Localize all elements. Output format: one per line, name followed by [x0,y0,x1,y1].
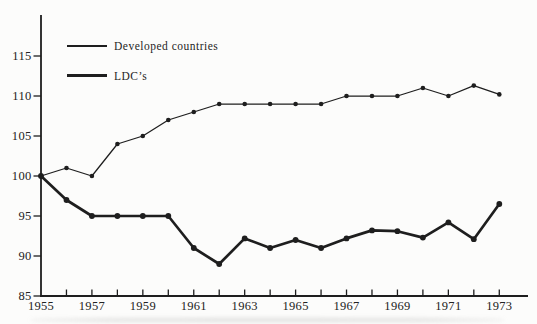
legend-thick-line-swatch [67,74,107,78]
y-tick-label: 115 [12,49,31,63]
data-point-ldc [89,213,95,219]
data-point-developed [446,94,451,99]
series-line-developed [41,86,499,176]
x-tick-label: 1967 [333,299,359,313]
data-point-ldc [38,173,44,179]
data-point-ldc [165,213,171,219]
data-point-developed [421,86,426,91]
data-point-developed [497,92,502,97]
data-point-ldc [216,261,222,267]
data-point-developed [395,94,400,99]
data-point-ldc [140,213,146,219]
legend-thin-line-swatch [67,45,107,47]
data-point-developed [90,174,95,179]
data-point-ldc [471,236,477,242]
data-point-developed [319,102,324,107]
x-tick-label: 1971 [435,299,461,313]
data-point-developed [166,118,171,123]
data-point-ldc [369,228,375,234]
data-point-ldc [267,245,273,251]
data-point-ldc [191,245,197,251]
x-tick-label: 1955 [28,299,54,313]
y-tick-label: 110 [12,89,31,103]
x-tick-label: 1961 [181,299,207,313]
data-point-ldc [344,236,350,242]
y-tick-label: 95 [18,209,31,223]
data-point-developed [370,94,375,99]
data-point-developed [64,166,69,171]
legend-item-developed: Developed countries [67,38,218,54]
y-tick-label: 90 [18,249,31,263]
data-point-developed [472,83,477,88]
data-point-developed [141,134,146,139]
data-point-developed [115,142,120,147]
scan-artifact [30,318,505,322]
x-tick-label: 1973 [486,299,512,313]
data-point-developed [344,94,349,99]
data-point-developed [293,102,298,107]
data-point-ldc [115,213,121,219]
x-tick-label: 1957 [79,299,105,313]
x-tick-label: 1969 [384,299,410,313]
data-point-developed [217,102,222,107]
data-point-ldc [420,235,426,241]
x-tick-label: 1963 [232,299,258,313]
legend-item-ldc: LDC’s [67,68,218,84]
legend: Developed countries LDC’s [67,38,218,97]
y-tick-label: 105 [12,129,32,143]
chart-figure: 8590951001051101151955195719591961196319… [0,0,537,324]
data-point-ldc [293,237,299,243]
data-point-ldc [242,236,248,242]
legend-label-developed: Developed countries [114,40,218,52]
legend-label-ldc: LDC’s [114,70,147,82]
data-point-ldc [496,201,502,207]
data-point-ldc [318,245,324,251]
x-tick-label: 1965 [282,299,308,313]
data-point-ldc [446,220,452,226]
data-point-developed [268,102,273,107]
data-point-ldc [395,228,401,234]
data-point-developed [192,110,197,115]
y-tick-label: 100 [12,169,32,183]
x-tick-label: 1959 [130,299,156,313]
data-point-ldc [64,197,70,203]
data-point-developed [242,102,247,107]
